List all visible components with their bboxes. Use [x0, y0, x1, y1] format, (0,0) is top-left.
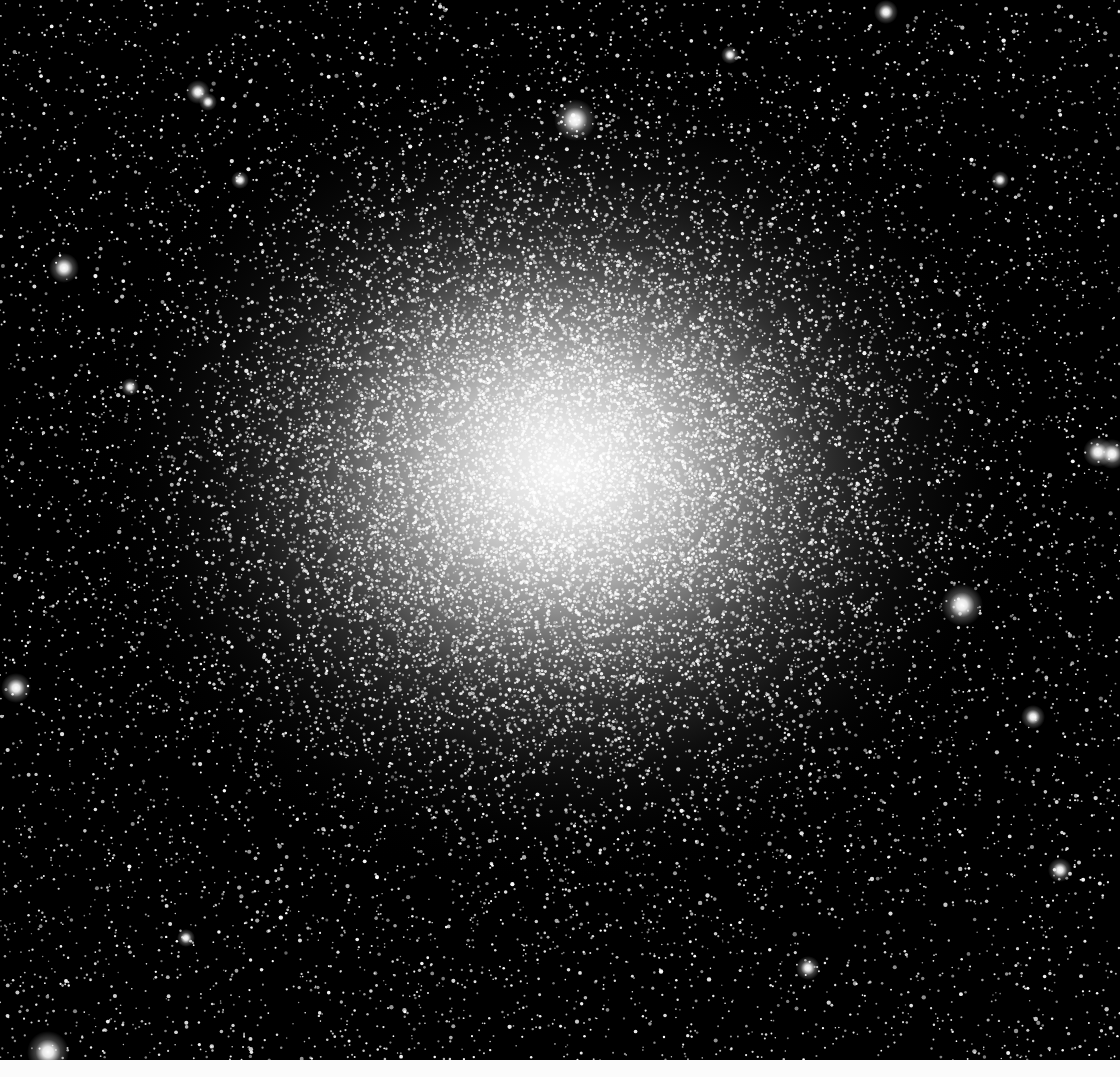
astronomical-image [0, 0, 1120, 1077]
starfield [0, 0, 1120, 1060]
stars-layer [0, 0, 1120, 1060]
bottom-margin [0, 1060, 1120, 1077]
